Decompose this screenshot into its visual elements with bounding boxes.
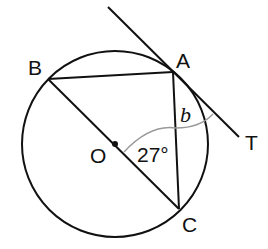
label-C: C — [182, 213, 197, 236]
chord-BA — [48, 72, 173, 79]
label-A: A — [176, 49, 190, 72]
chord-AC — [173, 72, 179, 209]
center-point-O — [112, 141, 118, 147]
label-B: B — [28, 56, 42, 79]
label-O: O — [90, 144, 106, 167]
label-T: T — [245, 131, 258, 154]
angle-label-27: 27° — [137, 143, 169, 166]
geometry-diagram: B A T O C b 27° — [0, 0, 268, 249]
angle-label-b: b — [180, 102, 191, 127]
